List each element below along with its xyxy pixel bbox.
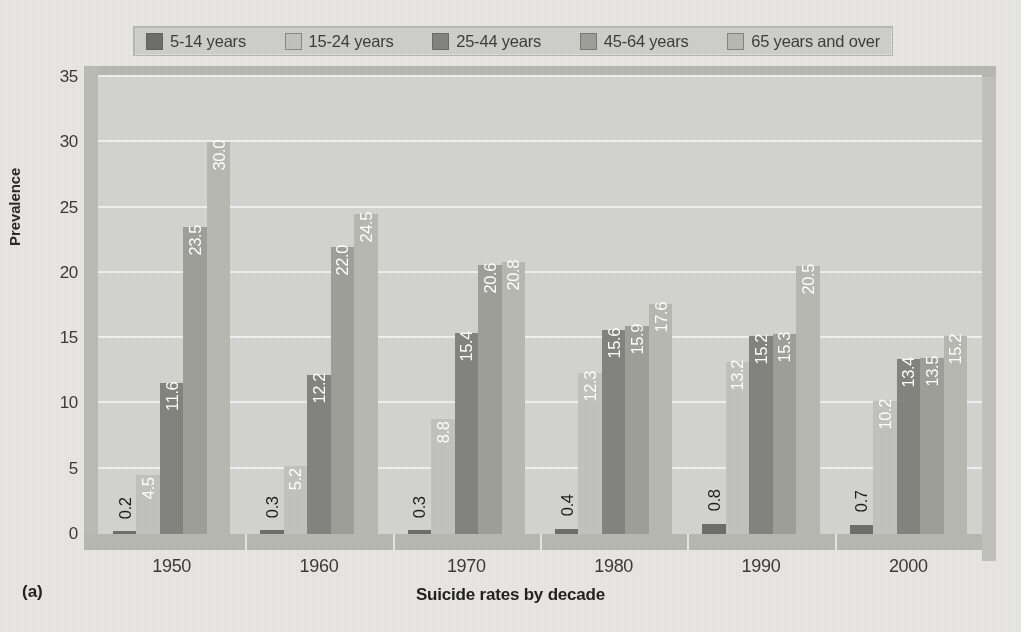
plot-right-wall <box>982 77 996 561</box>
plot-area: 0.24.511.623.530.00.35.212.222.024.50.38… <box>84 66 996 561</box>
bar-value-label: 8.8 <box>435 421 452 443</box>
bar-group-1980: 0.412.315.615.917.6 <box>540 77 687 534</box>
bar-value-label: 0.3 <box>264 496 281 518</box>
bar-1990-65-years-and-over[interactable]: 20.5 <box>796 266 820 534</box>
panel-label: (a) <box>22 582 43 602</box>
bar-2000-45-64-years[interactable]: 13.5 <box>920 358 944 534</box>
floor-tick <box>540 534 542 550</box>
y-tick-0: 0 <box>69 524 78 544</box>
x-tick-1980: 1980 <box>594 556 633 577</box>
bar-1980-15-24-years[interactable]: 12.3 <box>578 373 602 534</box>
bar-1950-25-44-years[interactable]: 11.6 <box>160 383 184 534</box>
bar-1970-65-years-and-over[interactable]: 20.8 <box>502 262 526 534</box>
legend-item-4[interactable]: 65 years and over <box>727 32 880 51</box>
bar-value-label: 13.5 <box>924 356 941 387</box>
y-tick-10: 10 <box>60 393 78 413</box>
y-tick-30: 30 <box>60 132 78 152</box>
bar-value-label: 20.8 <box>505 260 522 291</box>
bar-1950-15-24-years[interactable]: 4.5 <box>136 475 160 534</box>
x-tick-1970: 1970 <box>447 556 486 577</box>
bar-1990-5-14-years[interactable]: 0.8 <box>702 524 726 534</box>
legend-item-0[interactable]: 5-14 years <box>146 32 246 51</box>
y-tick-5: 5 <box>69 459 78 479</box>
bar-group-1950: 0.24.511.623.530.0 <box>98 77 245 534</box>
bar-1970-45-64-years[interactable]: 20.6 <box>478 265 502 534</box>
bar-value-label: 22.0 <box>334 245 351 276</box>
bar-value-label: 15.9 <box>629 324 646 355</box>
bar-value-label: 5.2 <box>287 468 304 490</box>
bar-value-label: 0.7 <box>853 491 870 513</box>
legend-item-label: 25-44 years <box>456 32 541 51</box>
bar-2000-15-24-years[interactable]: 10.2 <box>873 401 897 534</box>
chart-legend: 5-14 years15-24 years25-44 years45-64 ye… <box>133 26 893 56</box>
bar-1960-15-24-years[interactable]: 5.2 <box>284 466 308 534</box>
bar-1960-25-44-years[interactable]: 12.2 <box>307 375 331 534</box>
floor-tick <box>245 534 247 550</box>
floor-tick <box>835 534 837 550</box>
bar-value-label: 0.2 <box>116 497 133 519</box>
bar-value-label: 0.4 <box>558 495 575 517</box>
bar-1990-15-24-years[interactable]: 13.2 <box>726 362 750 534</box>
x-tick-1960: 1960 <box>300 556 339 577</box>
bar-1960-45-64-years[interactable]: 22.0 <box>331 247 355 534</box>
bar-value-label: 11.6 <box>163 381 180 410</box>
bar-1950-45-64-years[interactable]: 23.5 <box>183 227 207 534</box>
bar-group-2000: 0.710.213.413.515.2 <box>835 77 982 534</box>
bar-value-label: 0.8 <box>706 489 723 511</box>
legend-item-3[interactable]: 45-64 years <box>580 32 689 51</box>
bar-1960-65-years-and-over[interactable]: 24.5 <box>354 214 378 534</box>
legend-swatch-icon <box>580 33 597 50</box>
bar-1950-65-years-and-over[interactable]: 30.0 <box>207 142 231 534</box>
plot-left-wall <box>84 66 98 550</box>
bar-value-label: 23.5 <box>187 225 204 256</box>
bar-value-label: 15.6 <box>605 328 622 359</box>
legend-swatch-icon <box>432 33 449 50</box>
bar-value-label: 15.4 <box>458 331 475 362</box>
bar-2000-25-44-years[interactable]: 13.4 <box>897 359 921 534</box>
bar-value-label: 15.2 <box>947 334 964 365</box>
bar-1990-45-64-years[interactable]: 15.3 <box>773 334 797 534</box>
legend-item-label: 65 years and over <box>751 32 880 51</box>
bar-group-1960: 0.35.212.222.024.5 <box>245 77 392 534</box>
plot-canvas: 0.24.511.623.530.00.35.212.222.024.50.38… <box>98 77 982 534</box>
bar-value-label: 15.3 <box>776 332 793 363</box>
bar-1980-45-64-years[interactable]: 15.9 <box>625 326 649 534</box>
floor-tick <box>393 534 395 550</box>
y-axis-title: Prevalence <box>6 168 23 246</box>
legend-item-label: 45-64 years <box>604 32 689 51</box>
x-tick-1990: 1990 <box>742 556 781 577</box>
y-tick-25: 25 <box>60 198 78 218</box>
bar-value-label: 20.6 <box>482 263 499 294</box>
bar-1970-15-24-years[interactable]: 8.8 <box>431 419 455 534</box>
bar-2000-65-years-and-over[interactable]: 15.2 <box>944 336 968 534</box>
bar-value-label: 15.2 <box>753 334 770 365</box>
legend-item-1[interactable]: 15-24 years <box>285 32 394 51</box>
y-tick-15: 15 <box>60 328 78 348</box>
bar-value-label: 12.2 <box>311 373 328 404</box>
bar-group-1970: 0.38.815.420.620.8 <box>393 77 540 534</box>
y-tick-20: 20 <box>60 263 78 283</box>
bar-1980-65-years-and-over[interactable]: 17.6 <box>649 304 673 534</box>
bar-1970-25-44-years[interactable]: 15.4 <box>455 333 479 534</box>
legend-item-label: 5-14 years <box>170 32 246 51</box>
x-axis-title: Suicide rates by decade <box>0 585 1021 605</box>
bar-1990-25-44-years[interactable]: 15.2 <box>749 336 773 534</box>
bar-value-label: 24.5 <box>358 212 375 243</box>
bar-1980-25-44-years[interactable]: 15.6 <box>602 330 626 534</box>
y-axis-tick-labels: 05101520253035 <box>30 66 78 536</box>
bar-value-label: 13.2 <box>729 360 746 391</box>
bar-value-label: 17.6 <box>652 302 669 333</box>
legend-item-2[interactable]: 25-44 years <box>432 32 541 51</box>
bar-value-label: 12.3 <box>582 371 599 402</box>
bar-value-label: 4.5 <box>140 478 157 500</box>
bar-value-label: 13.4 <box>900 357 917 388</box>
legend-swatch-icon <box>146 33 163 50</box>
bar-2000-5-14-years[interactable]: 0.7 <box>850 525 874 534</box>
x-tick-2000: 2000 <box>889 556 928 577</box>
y-tick-35: 35 <box>60 67 78 87</box>
legend-swatch-icon <box>727 33 744 50</box>
plot-floor <box>84 534 982 550</box>
legend-item-label: 15-24 years <box>309 32 394 51</box>
x-tick-1950: 1950 <box>152 556 191 577</box>
bar-group-1990: 0.813.215.215.320.5 <box>687 77 834 534</box>
